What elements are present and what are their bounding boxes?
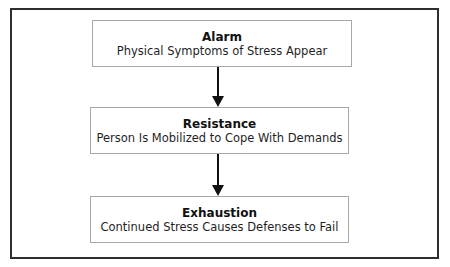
arrow-down-icon: [212, 67, 224, 107]
stage-description-exhaustion: Continued Stress Causes Defenses to Fail: [91, 220, 348, 234]
stage-title-alarm: Alarm: [93, 30, 351, 44]
stage-description-resistance: Person Is Mobilized to Cope With Demands: [91, 131, 348, 145]
stage-description-alarm: Physical Symptoms of Stress Appear: [93, 44, 351, 58]
arrow-down-icon: [212, 154, 224, 196]
stage-title-resistance: Resistance: [91, 117, 348, 131]
stage-box-alarm: Alarm Physical Symptoms of Stress Appear: [92, 20, 352, 67]
stage-title-exhaustion: Exhaustion: [91, 206, 348, 220]
stage-box-exhaustion: Exhaustion Continued Stress Causes Defen…: [90, 196, 349, 243]
stage-box-resistance: Resistance Person Is Mobilized to Cope W…: [90, 107, 349, 154]
